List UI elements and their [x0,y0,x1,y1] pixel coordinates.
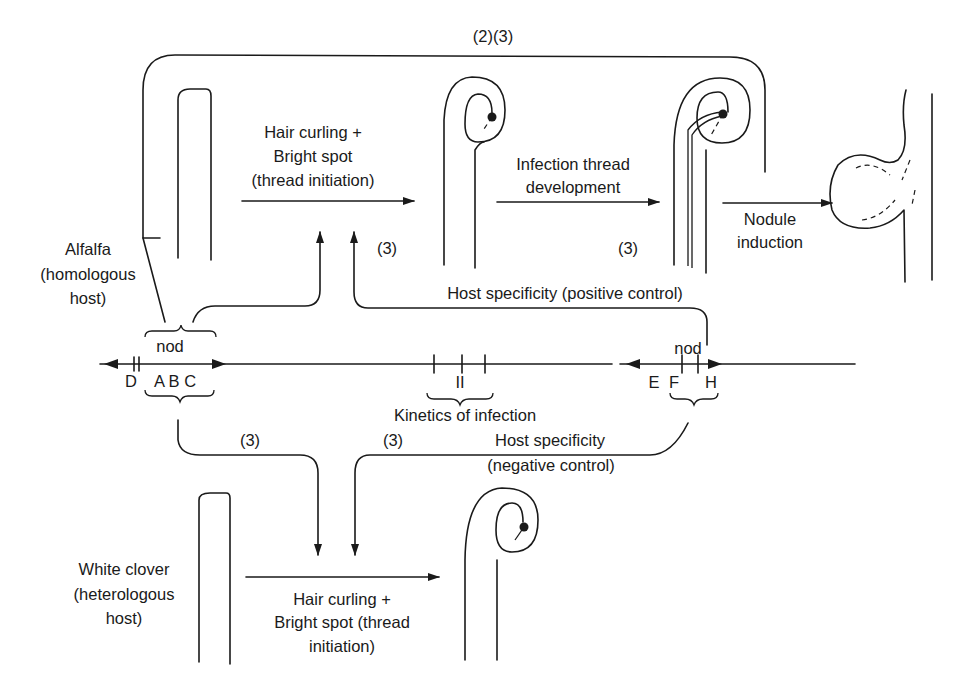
negative-control-label: (negative control) [487,456,614,474]
svg-text:(homologous: (homologous [40,265,135,283]
svg-text:Nodule: Nodule [744,210,796,228]
ref3-label-left-bottom: (3) [240,431,260,449]
host-specificity-positive-label: Host specificity (positive control) [447,284,683,302]
infection-thread-label: Infection thread development [516,155,630,196]
ref3-label-top: (3) [377,239,397,257]
region-II-label: II [455,373,464,391]
svg-text:Hair curling +: Hair curling + [264,123,362,141]
top-feedback-bracket: (2)(3) [143,27,765,322]
root-hair-straight-alfalfa [178,89,211,260]
svg-text:host): host) [70,289,107,307]
gene-E-label: E [648,373,659,391]
alfalfa-label: Alfalfa (homologous host) [40,240,135,307]
curled-root-hair-clover [465,488,538,660]
svg-text:Hair curling +: Hair curling + [293,590,391,608]
kinetics-label: Kinetics of infection [394,406,536,424]
hair-curling-bottom-label: Hair curling + Bright spot (thread initi… [274,590,410,655]
gene-ABC-label: A B C [154,372,196,390]
svg-text:induction: induction [737,233,803,251]
top-refs-label: (2)(3) [473,27,513,45]
arrow-nodabc-to-curling [193,232,320,322]
white-clover-label: White clover (heterologous host) [74,560,175,627]
nod-right-label: nod [674,339,702,357]
root-hair-straight-clover [199,493,230,664]
svg-text:host): host) [106,609,143,627]
svg-text:Bright spot: Bright spot [274,147,353,165]
brace-region-II [427,393,493,405]
svg-text:Infection thread: Infection thread [516,155,630,173]
svg-text:(heterologous: (heterologous [74,585,175,603]
gene-D-label: D [125,372,137,390]
ref3-label-mid-bottom: (3) [383,431,403,449]
genetic-map [100,355,855,373]
brace-right-genes [670,393,718,405]
svg-text:development: development [526,178,621,196]
svg-text:initiation): initiation) [309,637,375,655]
svg-text:Bright spot (thread: Bright spot (thread [274,613,410,631]
host-specificity-negative-label: Host specificity [495,431,606,449]
svg-text:Alfalfa: Alfalfa [65,240,112,258]
curled-root-hair-top [444,77,505,268]
gene-F-label: F [669,373,679,391]
nodulation-diagram: (2)(3) Alfalfa (homologous host) Hair cu… [0,0,963,687]
hair-curling-top-label: Hair curling + Bright spot (thread initi… [252,123,375,189]
svg-text:White clover: White clover [79,560,170,578]
brace-bottom-left [145,390,214,402]
brace-top-left [145,325,216,337]
nodule-induction-label: Nodule induction [737,210,803,251]
ref3-label-infection: (3) [618,239,638,257]
nod-left-label: nod [156,337,184,355]
gene-H-label: H [705,373,717,391]
nodule-root [830,90,932,282]
svg-text:(thread initiation): (thread initiation) [252,171,375,189]
